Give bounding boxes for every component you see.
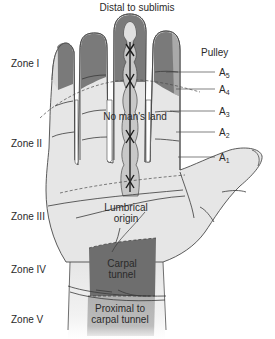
label-pulley-a4: A4 [219,84,230,98]
label-pulley-a5: A5 [219,67,230,81]
label-pulley-a3: A3 [219,106,230,120]
label-pulley-a2: A2 [219,127,230,141]
label-proximal-line1: Proximal to [95,303,145,314]
label-zone-2: Zone II [11,138,42,149]
label-pulley-heading: Pulley [201,47,228,58]
label-zone-5: Zone V [11,314,43,325]
label-lumbrical-line2: origin [114,213,138,224]
label-zone-1: Zone I [11,58,39,69]
hand-illustration [0,0,275,339]
label-zone-3: Zone III [11,211,45,222]
label-proximal-line2: carpal tunnel [91,314,148,325]
flexor-zones-diagram: Distal to sublimis Zone I Zone II Zone I… [0,0,275,339]
label-zone-4: Zone IV [11,264,46,275]
label-carpal-line1: Carpal [107,258,136,269]
label-distal-to-sublimis: Distal to sublimis [99,2,174,13]
label-carpal-line2: tunnel [108,269,135,280]
label-lumbrical-line1: Lumbrical [104,202,147,213]
label-pulley-a1: A1 [219,152,230,166]
label-no-mans-land: No man's land [103,111,167,122]
little-finger-zone1 [57,43,73,90]
